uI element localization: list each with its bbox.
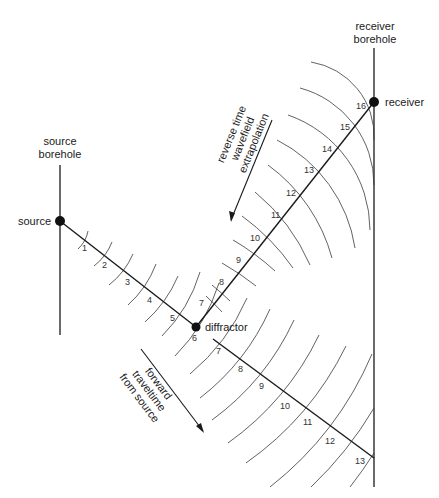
diffractor-point (192, 323, 201, 332)
svg-text:2: 2 (102, 260, 107, 270)
svg-text:1: 1 (82, 243, 87, 253)
svg-text:13: 13 (355, 456, 365, 466)
diffraction-diagram: source borehole receiver borehole source… (0, 0, 439, 498)
svg-text:10: 10 (250, 233, 260, 243)
svg-text:9: 9 (259, 381, 264, 391)
receiver-borehole-label-1: receiver (355, 20, 394, 32)
svg-text:10: 10 (280, 401, 290, 411)
forward-path-ticks: 7 8 9 10 11 12 13 (216, 346, 365, 466)
source-borehole-label-2: borehole (39, 148, 82, 160)
reverse-annotation: reverse time wavefield extrapolation (214, 103, 271, 175)
svg-text:12: 12 (325, 436, 335, 446)
svg-text:5: 5 (170, 313, 175, 323)
svg-text:13: 13 (304, 165, 314, 175)
svg-text:8: 8 (238, 364, 243, 374)
diffractor-to-receiver-ray (196, 102, 374, 327)
source-point (55, 216, 65, 226)
svg-text:7: 7 (199, 298, 204, 308)
receiver-label: receiver (385, 96, 424, 108)
svg-text:6: 6 (192, 333, 197, 343)
svg-text:4: 4 (147, 295, 152, 305)
diffractor-label: diffractor (205, 321, 248, 333)
svg-text:11: 11 (271, 210, 280, 220)
receiver-borehole-label-2: borehole (354, 33, 397, 45)
reverse-wavefronts (206, 62, 374, 312)
source-borehole-label-1: source (43, 135, 76, 147)
svg-text:9: 9 (236, 255, 241, 265)
forward-continuation-ray (213, 339, 374, 458)
svg-text:16: 16 (356, 101, 366, 111)
source-label: source (18, 215, 51, 227)
svg-text:12: 12 (286, 188, 296, 198)
forward-annotation: forward traveltime from source (117, 357, 181, 425)
svg-text:8: 8 (219, 277, 224, 287)
svg-text:15: 15 (340, 122, 350, 132)
source-to-diffractor-ray (60, 221, 196, 327)
svg-text:3: 3 (125, 277, 130, 287)
svg-text:11: 11 (303, 417, 312, 427)
receiver-point (369, 97, 379, 107)
svg-text:7: 7 (216, 346, 221, 356)
svg-text:14: 14 (322, 144, 332, 154)
